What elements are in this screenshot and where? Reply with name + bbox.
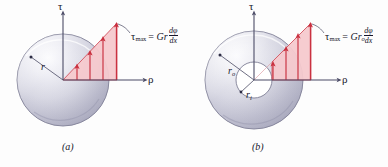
inner-radius-label-b: ri xyxy=(246,90,252,100)
formula-numerator-a: dφ xyxy=(168,27,178,36)
formula-fraction-a: dφ dx xyxy=(168,27,178,45)
panel-caption-b: (b) xyxy=(252,142,264,152)
outer-radius-label-b: ro xyxy=(228,66,235,76)
formula-tau-subscript-a: max xyxy=(136,35,147,42)
formula-coefficient-a: Gr xyxy=(156,31,167,42)
rho-axis-label-a: ρ xyxy=(148,74,154,85)
formula-tau-subscript-b: max xyxy=(330,35,341,42)
formula-leader-line-a xyxy=(118,24,130,33)
tau-axis-label-a: τ xyxy=(58,1,62,12)
formula-coefficient-b: Gr xyxy=(350,31,361,42)
panel-caption-a: (a) xyxy=(62,142,74,152)
formula-tau-max-a: τmax = Gr dφ dx xyxy=(131,27,179,45)
outer-radius-label-a: r xyxy=(41,62,45,72)
formula-equals-a: = xyxy=(148,31,154,42)
rho-axis-label-b: ρ xyxy=(342,74,348,85)
panel-b-hollow-shaft: τ ρ ro ri τmax = Gro dφ dx (b) xyxy=(194,0,388,167)
figure-root: τ ρ r τmax = Gr dφ dx (a) xyxy=(0,0,388,167)
formula-denominator-a: dx xyxy=(169,35,179,45)
panel-b-drawing xyxy=(194,0,388,167)
tau-axis-label-b: τ xyxy=(249,1,253,12)
formula-equals-b: = xyxy=(342,31,348,42)
formula-fraction-b: dφ dx xyxy=(363,27,373,45)
formula-leader-line-b xyxy=(312,24,324,33)
formula-numerator-b: dφ xyxy=(363,27,373,36)
formula-tau-max-b: τmax = Gro dφ dx xyxy=(325,27,374,45)
panel-a-drawing xyxy=(0,0,194,167)
inner-radius-subscript-b: i xyxy=(250,94,252,101)
panel-a-solid-shaft: τ ρ r τmax = Gr dφ dx (a) xyxy=(0,0,194,167)
outer-radius-subscript-b: o xyxy=(232,70,235,77)
formula-denominator-b: dx xyxy=(364,35,374,45)
